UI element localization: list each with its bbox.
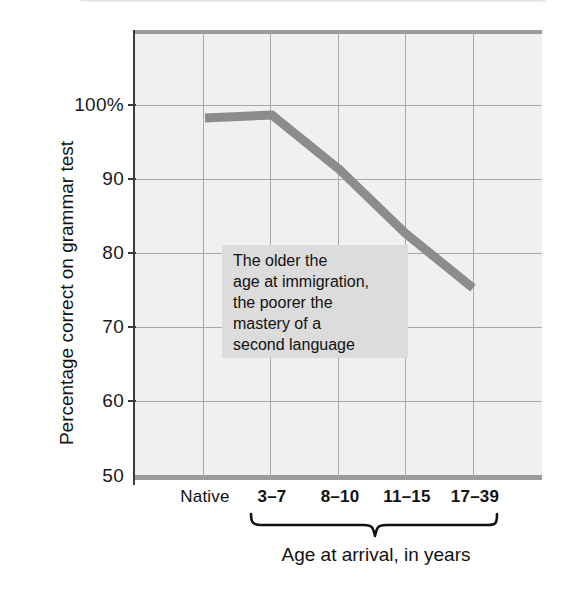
page-top-band bbox=[78, 0, 548, 2]
x-tick-label-11-15: 11–15 bbox=[383, 487, 430, 507]
y-axis-title: Percentage correct on grammar test bbox=[56, 108, 78, 478]
annotation-line-2: age at immigration, bbox=[233, 271, 408, 292]
x-axis-title: Age at arrival, in years bbox=[0, 544, 564, 566]
chart-figure: 100% 90 80 70 60 50 Percentage correct o… bbox=[0, 0, 564, 599]
annotation-line-4: mastery of a bbox=[233, 313, 408, 334]
group-brace bbox=[248, 512, 500, 540]
brace-path bbox=[251, 514, 497, 536]
x-tick-label-native: Native bbox=[180, 487, 229, 507]
annotation-line-1: The older the bbox=[233, 250, 408, 271]
annotation-callout: The older the age at immigration, the po… bbox=[222, 245, 408, 358]
annotation-line-5: second language bbox=[233, 334, 408, 355]
x-axis-title-text: Age at arrival, in years bbox=[93, 544, 470, 565]
x-tick-label-8-10: 8–10 bbox=[321, 487, 360, 507]
x-tick-label-17-39: 17–39 bbox=[451, 487, 499, 507]
x-tick-label-3-7: 3–7 bbox=[258, 487, 287, 507]
annotation-line-3: the poorer the bbox=[233, 292, 408, 313]
